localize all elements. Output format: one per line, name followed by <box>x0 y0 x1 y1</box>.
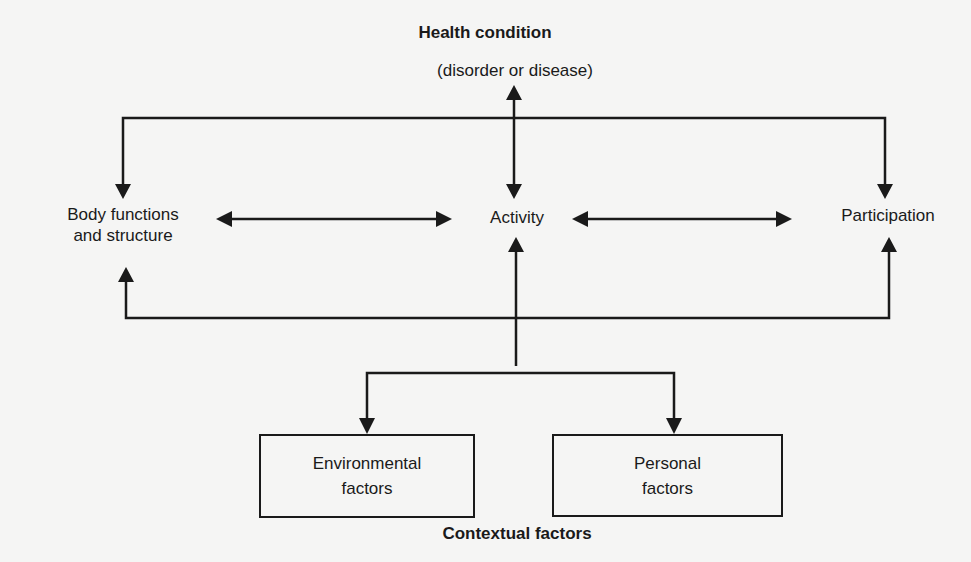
arrow-down-participation-icon <box>877 184 893 199</box>
arrow-down-personal-icon <box>666 418 682 434</box>
bottom-bracket-line <box>126 250 889 318</box>
arrow-up-health-icon <box>506 85 522 100</box>
body-functions-line2: and structure <box>18 225 228 246</box>
health-condition-title: Health condition <box>385 22 585 43</box>
environmental-line2: factors <box>313 476 422 501</box>
arrow-right-activity-icon <box>436 211 452 227</box>
arrow-right-participation-icon <box>776 211 792 227</box>
arrow-left-activity-icon <box>572 211 588 227</box>
arrow-up-activity-icon <box>508 237 524 252</box>
top-bracket-line <box>123 118 885 186</box>
personal-line2: factors <box>634 476 701 501</box>
personal-factors-box: Personal factors <box>552 434 783 517</box>
arrow-down-activity-icon <box>506 184 522 199</box>
arrowheads <box>115 85 897 434</box>
arrow-up-body-icon <box>118 267 134 282</box>
environmental-factors-box: Environmental factors <box>259 434 475 518</box>
activity-node: Activity <box>462 207 572 228</box>
contextual-factors-label: Contextual factors <box>400 523 634 544</box>
arrow-up-participation-icon <box>881 237 897 252</box>
arrow-down-environmental-icon <box>359 418 375 434</box>
body-functions-line1: Body functions <box>18 204 228 225</box>
personal-line1: Personal <box>634 451 701 476</box>
contextual-branch-line <box>367 373 674 420</box>
arrow-down-body-icon <box>115 184 131 199</box>
body-functions-node: Body functions and structure <box>18 204 228 246</box>
environmental-line1: Environmental <box>313 451 422 476</box>
participation-node: Participation <box>818 205 958 226</box>
diagram-connectors <box>0 0 971 562</box>
health-condition-subtitle: (disorder or disease) <box>380 60 650 81</box>
